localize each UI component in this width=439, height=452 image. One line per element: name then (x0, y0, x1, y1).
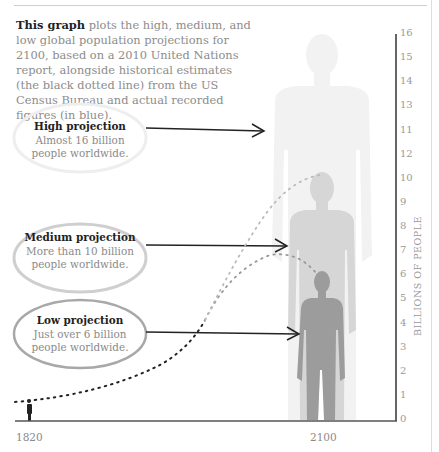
low-projection-label: Low projection Just over 6 billion peopl… (14, 314, 146, 355)
chart-canvas (0, 0, 439, 452)
y-axis-label: BILLIONS OF PEOPLE (412, 216, 423, 336)
high-projection-title: High projection (14, 120, 146, 134)
medium-projection-label: Medium projection More than 10 billion p… (14, 231, 146, 272)
y-tick: 13 (400, 99, 420, 110)
y-tick: 15 (400, 51, 420, 62)
x-label-end: 2100 (310, 431, 337, 443)
historic-1820-figure (27, 399, 32, 421)
high-projection-line2: people worldwide. (32, 147, 129, 159)
y-tick: 12 (400, 148, 420, 159)
y-tick: 9 (400, 196, 420, 207)
low-projection-line2: people worldwide. (32, 341, 129, 353)
y-tick: 2 (400, 365, 420, 376)
low-arrow (146, 327, 299, 340)
low-projection-title: Low projection (14, 314, 146, 328)
y-tick: 11 (400, 124, 420, 135)
medium-projection-title: Medium projection (14, 231, 146, 245)
y-tick: 0 (400, 413, 420, 424)
medium-projection-line2: people worldwide. (32, 258, 129, 270)
y-tick: 10 (400, 172, 420, 183)
high-projection-line1: Almost 16 billion (35, 134, 124, 146)
y-tick: 16 (400, 27, 420, 38)
y-tick: 1 (400, 389, 420, 400)
y-tick: 14 (400, 75, 420, 86)
low-projection-line1: Just over 6 billion (33, 328, 126, 340)
medium-arrow (146, 239, 287, 252)
high-projection-label: High projection Almost 16 billion people… (14, 120, 146, 161)
high-arrow (146, 124, 264, 137)
medium-projection-line1: More than 10 billion (26, 245, 134, 257)
x-label-start: 1820 (16, 431, 43, 443)
y-tick: 3 (400, 341, 420, 352)
